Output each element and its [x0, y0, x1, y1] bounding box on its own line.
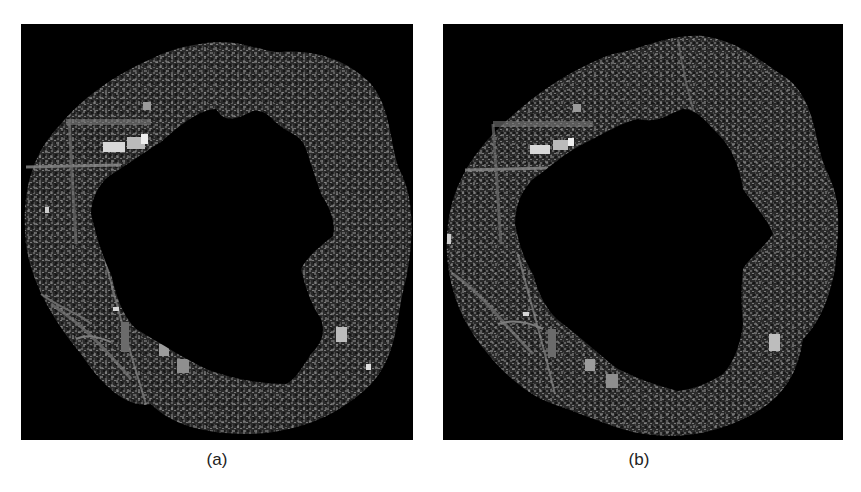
panel-a: (a): [21, 24, 413, 440]
figure: (a): [0, 0, 861, 492]
aerial-image-b: [443, 24, 843, 440]
aerial-image-b-graphic: [443, 24, 843, 440]
aerial-image-a: [21, 24, 413, 440]
panel-b: (b): [443, 24, 843, 440]
caption-b: (b): [609, 450, 669, 470]
aerial-image-a-graphic: [21, 24, 413, 440]
caption-a: (a): [187, 450, 247, 470]
